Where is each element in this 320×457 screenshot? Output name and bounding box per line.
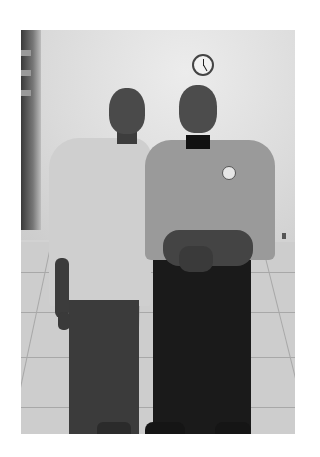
left-person-shoe: [97, 422, 131, 434]
badge-patch: [222, 166, 236, 180]
right-person-clasped-hands: [179, 246, 213, 272]
door-frame-stripe: [21, 70, 31, 76]
clock-hand: [203, 65, 207, 72]
wall-clock: [192, 54, 214, 76]
photo: [21, 30, 295, 434]
right-person-shoe: [145, 422, 185, 434]
wall-outlet: [282, 233, 286, 239]
door-frame-stripe: [21, 50, 31, 56]
left-person-pants: [69, 300, 139, 434]
right-person-undershirt: [186, 135, 210, 149]
left-person-arm: [55, 258, 69, 318]
tile-line: [261, 242, 295, 428]
door-frame: [21, 30, 41, 230]
right-person-pants: [153, 258, 251, 434]
left-person-hand: [58, 312, 70, 330]
tile-line: [21, 242, 52, 430]
right-person-shoe: [215, 422, 251, 434]
right-person-head: [179, 85, 217, 133]
door-frame-stripe: [21, 90, 31, 96]
left-person-head: [109, 88, 145, 134]
